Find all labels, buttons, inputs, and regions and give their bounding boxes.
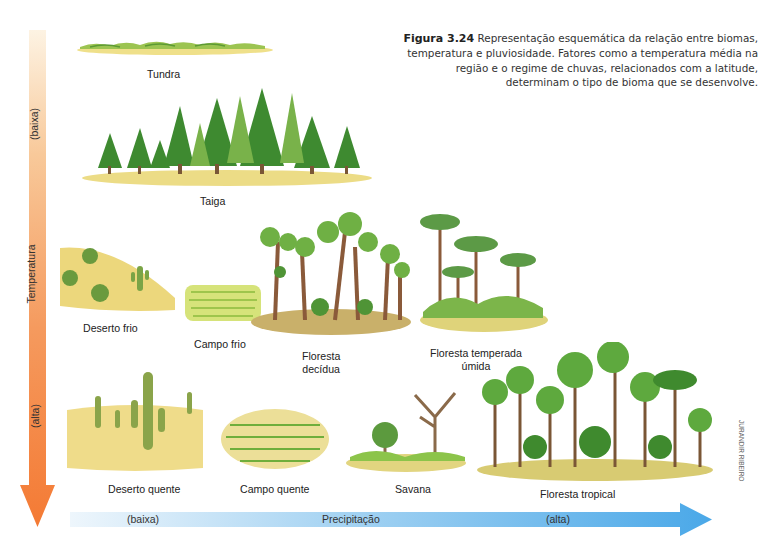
figure-caption: Figura 3.24 Representação esquemática da… [398,31,758,90]
deserto-frio-label: Deserto frio [83,322,138,335]
floresta-decidua-label-line1: Floresta [302,350,340,362]
floresta-decidua-label: Floresta decídua [302,350,340,376]
precipitation-axis-title: Precipitação [322,513,380,525]
floresta-decidua-illustration [250,212,412,337]
taiga-illustration [82,88,372,188]
floresta-temperada-umida-illustration [418,208,550,338]
savana-label: Savana [395,483,431,496]
deserto-quente-label: Deserto quente [108,483,180,496]
floresta-tropical-illustration [475,342,715,482]
tundra-illustration [75,35,275,60]
campo-quente-label: Campo quente [240,483,310,496]
campo-frio-label: Campo frio [194,338,246,351]
deserto-frio-illustration [55,238,180,313]
temperature-low-label: (baixa) [28,108,40,140]
campo-quente-illustration [220,405,330,473]
taiga-label: Taiga [200,195,225,208]
savana-illustration [345,387,467,475]
temperature-axis-title: Temperatura [25,245,37,304]
illustrator-credit: JURANDIR RIBEIRO [738,420,745,481]
precipitation-arrow [70,503,712,536]
deserto-quente-illustration [65,370,205,475]
precipitation-high-label: (alta) [546,513,570,525]
temperature-high-label: (alta) [29,404,41,428]
figure-label: Figura 3.24 [403,32,474,45]
precipitation-low-label: (baixa) [127,513,159,525]
floresta-decidua-label-line2: decídua [302,363,340,375]
floresta-tropical-label: Floresta tropical [540,488,615,501]
tundra-label: Tundra [147,68,180,81]
